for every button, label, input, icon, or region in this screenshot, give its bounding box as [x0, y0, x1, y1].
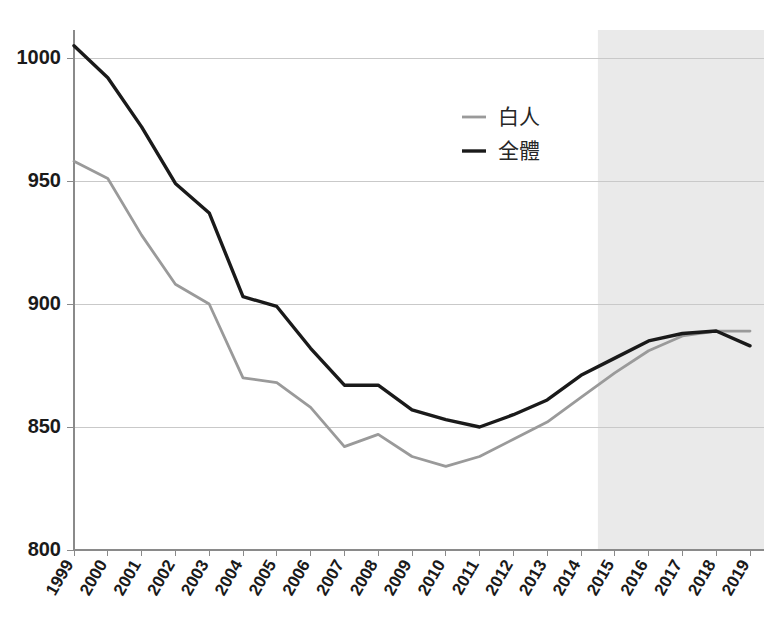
x-tick-label-2014: 2014: [549, 556, 585, 599]
y-tick-label-1000: 1000: [17, 46, 62, 68]
line-chart: 8008509009501000 19992000200120022003200…: [0, 0, 778, 631]
shaded-forecast-region: [598, 30, 764, 550]
y-tick-label-950: 950: [28, 169, 61, 191]
legend-label-0: 白人: [498, 105, 540, 128]
x-tick-label-2019: 2019: [718, 557, 753, 599]
x-tick-label-2003: 2003: [177, 557, 212, 599]
x-tick-label-2016: 2016: [617, 557, 652, 599]
y-axis-tick-labels: 8008509009501000: [17, 46, 62, 560]
x-tick-label-2017: 2017: [650, 557, 685, 599]
x-tick-label-2018: 2018: [684, 557, 719, 599]
chart-canvas: 8008509009501000 19992000200120022003200…: [0, 0, 778, 631]
y-tick-label-900: 900: [28, 292, 61, 314]
x-tick-label-2013: 2013: [515, 557, 550, 599]
x-tick-label-2015: 2015: [583, 557, 618, 599]
x-tick-label-2002: 2002: [143, 557, 178, 599]
y-tick-label-850: 850: [28, 415, 61, 437]
x-tick-label-2008: 2008: [346, 557, 381, 599]
x-tick-label-2009: 2009: [380, 557, 415, 599]
legend-label-1: 全體: [498, 139, 540, 162]
x-axis-tick-labels: 1999200020012002200320042005200620072008…: [42, 556, 753, 599]
x-tick-label-1999: 1999: [42, 557, 77, 599]
x-tick-label-2005: 2005: [245, 557, 280, 599]
x-tick-label-2004: 2004: [211, 556, 247, 599]
x-tick-label-2011: 2011: [448, 557, 483, 598]
x-tick-label-2006: 2006: [279, 557, 314, 599]
x-tick-label-2010: 2010: [414, 557, 449, 599]
x-tick-label-2001: 2001: [110, 557, 145, 599]
chart-legend: 白人全體: [462, 105, 540, 162]
projection-shading-band: [598, 30, 764, 550]
x-tick-label-2007: 2007: [312, 557, 347, 599]
y-tick-label-800: 800: [28, 538, 61, 560]
x-tick-label-2012: 2012: [481, 557, 516, 599]
x-tick-label-2000: 2000: [76, 557, 111, 599]
